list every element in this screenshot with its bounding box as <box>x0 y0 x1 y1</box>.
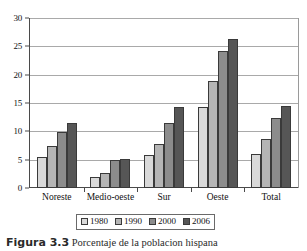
y-axis-tick-labels: 30 25 20 15 10 5 0 <box>2 0 22 200</box>
legend-item-2006: 2006 <box>183 216 210 227</box>
legend-swatch-icon <box>115 218 122 225</box>
figure-caption-text: Porcentaje de la poblacion hispana <box>72 237 218 248</box>
bar-1980 <box>144 155 154 188</box>
y-tick-label: 15 <box>2 99 22 108</box>
legend-label: 1990 <box>124 216 142 227</box>
x-axis-labels: Noreste Medio-oeste Sur Oeste Total <box>30 191 298 203</box>
legend-label: 2000 <box>158 216 176 227</box>
bar-1990 <box>47 146 57 189</box>
y-tick-label: 25 <box>2 42 22 51</box>
bar-1990 <box>208 81 218 188</box>
bar-1980 <box>90 177 100 188</box>
y-tick-label: 5 <box>2 155 22 164</box>
figure-caption: Figura 3.3 Porcentaje de la poblacion hi… <box>6 236 307 251</box>
legend-item-1990: 1990 <box>115 216 142 227</box>
bar-1990 <box>261 139 271 188</box>
bar-group-medio-oeste <box>84 18 138 188</box>
bar-2000 <box>164 123 174 188</box>
y-tick-label: 30 <box>2 14 22 23</box>
legend-swatch-icon <box>149 218 156 225</box>
plot-right-border <box>298 18 299 188</box>
bar-2000 <box>110 160 120 188</box>
bar-2006 <box>67 123 77 188</box>
bar-1990 <box>154 144 164 188</box>
bar-group-oeste <box>191 18 245 188</box>
bar-1980 <box>251 154 261 188</box>
legend-item-1980: 1980 <box>81 216 108 227</box>
legend-label: 2006 <box>192 216 210 227</box>
bar-2006 <box>120 159 130 188</box>
x-label-medio-oeste: Medio-oeste <box>84 191 138 203</box>
bar-2006 <box>281 106 291 188</box>
bar-2000 <box>271 118 281 188</box>
bar-2006 <box>174 107 184 188</box>
bar-group-total <box>244 18 298 188</box>
bar-1990 <box>100 173 110 188</box>
bar-2000 <box>57 132 67 188</box>
y-tick-label: 10 <box>2 127 22 136</box>
y-tick-label: 20 <box>2 70 22 79</box>
chart-legend: 1980 1990 2000 2006 <box>76 214 215 230</box>
bar-1980 <box>37 157 47 188</box>
bar-2006 <box>228 39 238 188</box>
y-tick-label: 0 <box>2 184 22 193</box>
figure-container: 30 25 20 15 10 5 0 <box>0 0 307 251</box>
bar-2000 <box>218 51 228 188</box>
bar-group-noreste <box>30 18 84 188</box>
x-label-total: Total <box>244 191 298 203</box>
chart-plot-area: 30 25 20 15 10 5 0 <box>0 0 307 200</box>
x-label-oeste: Oeste <box>191 191 245 203</box>
bar-group-sur <box>137 18 191 188</box>
bar-1980 <box>198 107 208 188</box>
bar-groups <box>30 18 298 188</box>
x-label-sur: Sur <box>137 191 191 203</box>
legend-label: 1980 <box>90 216 108 227</box>
legend-swatch-icon <box>183 218 190 225</box>
figure-caption-label: Figura 3.3 <box>6 236 69 249</box>
legend-swatch-icon <box>81 218 88 225</box>
legend-item-2000: 2000 <box>149 216 176 227</box>
x-label-noreste: Noreste <box>30 191 84 203</box>
